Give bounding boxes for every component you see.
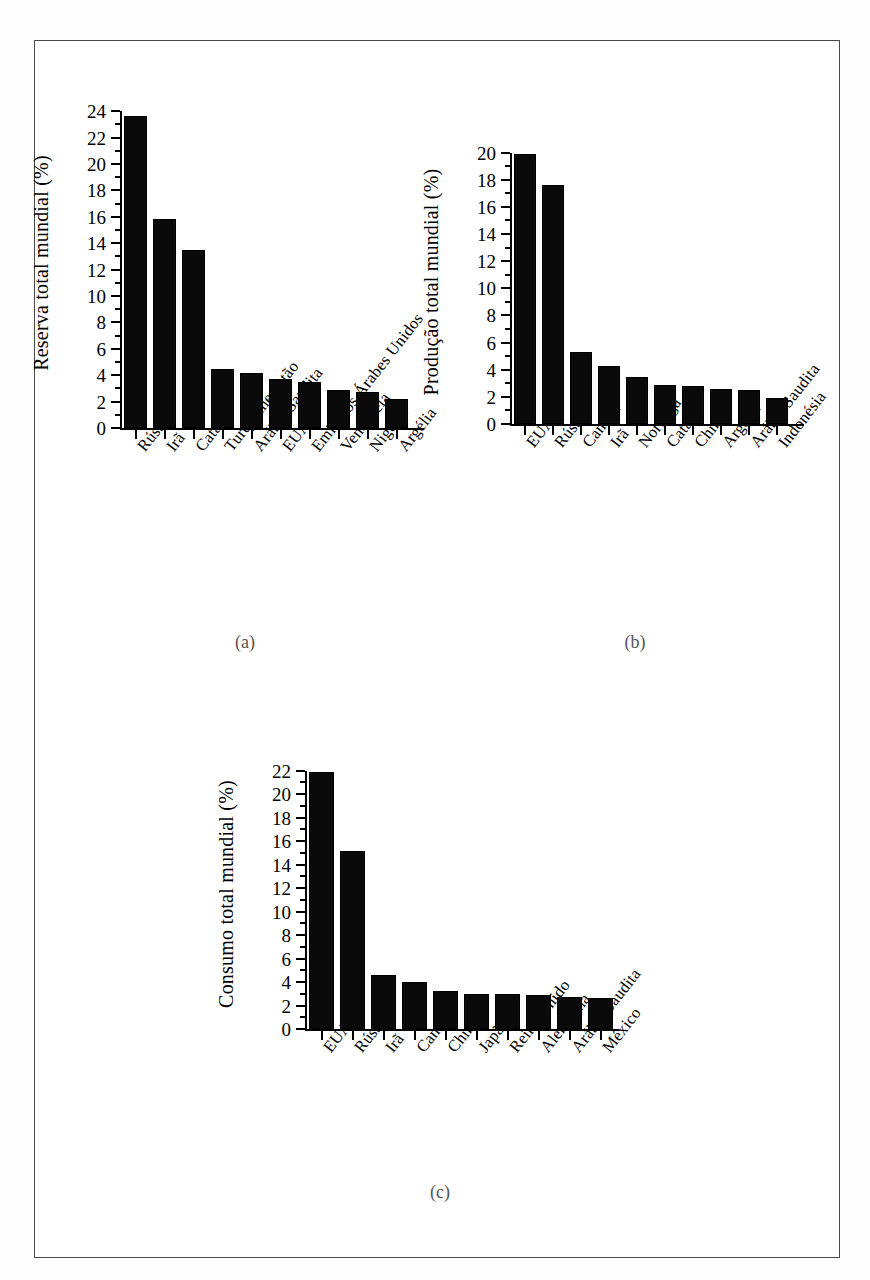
bar — [298, 382, 321, 428]
y-tick-major — [111, 110, 120, 112]
chart-c: 0246810121416182022Consumo total mundial… — [245, 745, 645, 1210]
y-tick-major — [111, 137, 120, 139]
y-tick-minor — [300, 993, 305, 995]
y-tick-major — [296, 887, 305, 889]
y-tick-label: 22 — [58, 128, 106, 147]
y-tick-major — [296, 793, 305, 795]
y-tick-label: 12 — [243, 879, 291, 898]
y-tick-major — [296, 1028, 305, 1030]
y-tick-label: 22 — [243, 761, 291, 780]
y-tick-label: 18 — [448, 170, 496, 189]
y-tick-label: 24 — [58, 102, 106, 121]
y-tick-minor — [505, 409, 510, 411]
y-tick-minor — [505, 328, 510, 330]
y-tick-minor — [505, 219, 510, 221]
y-tick-major — [296, 817, 305, 819]
bar — [371, 975, 396, 1029]
y-tick-label: 10 — [58, 287, 106, 306]
y-tick-major — [296, 934, 305, 936]
bar — [495, 994, 520, 1029]
y-tick-major — [501, 423, 510, 425]
y-tick-major — [501, 369, 510, 371]
caption-a: (a) — [205, 632, 285, 653]
bar — [464, 994, 489, 1029]
bar — [514, 154, 536, 424]
y-tick-label: 8 — [448, 306, 496, 325]
y-axis-line — [510, 153, 512, 424]
bar — [402, 982, 427, 1029]
y-tick-minor — [115, 255, 120, 257]
y-tick-major — [111, 374, 120, 376]
bar — [433, 991, 458, 1029]
y-tick-minor — [505, 274, 510, 276]
y-tick-label: 12 — [58, 260, 106, 279]
bar — [340, 851, 365, 1029]
y-tick-minor — [505, 301, 510, 303]
y-axis-title: Produção total mundial (%) — [420, 139, 444, 424]
y-tick-minor — [505, 165, 510, 167]
y-tick-label: 16 — [58, 207, 106, 226]
y-tick-minor — [115, 229, 120, 231]
bar — [710, 389, 732, 424]
y-tick-major — [111, 163, 120, 165]
y-tick-minor — [505, 247, 510, 249]
bar — [327, 390, 350, 428]
bar — [356, 392, 379, 428]
y-tick-major — [501, 206, 510, 208]
y-tick-minor — [300, 781, 305, 783]
y-tick-label: 20 — [243, 785, 291, 804]
y-tick-minor — [300, 899, 305, 901]
y-tick-major — [111, 321, 120, 323]
bar — [182, 250, 205, 428]
y-tick-major — [111, 295, 120, 297]
bar — [385, 399, 408, 428]
y-tick-minor — [300, 922, 305, 924]
y-tick-minor — [505, 355, 510, 357]
y-tick-label: 10 — [243, 902, 291, 921]
y-tick-label: 14 — [448, 225, 496, 244]
bar — [626, 377, 648, 425]
y-tick-major — [111, 242, 120, 244]
y-tick-minor — [115, 335, 120, 337]
y-tick-label: 2 — [58, 392, 106, 411]
chart-b: 02468101214161820Produção total mundial … — [450, 125, 820, 650]
y-tick-major — [501, 314, 510, 316]
y-tick-label: 8 — [243, 926, 291, 945]
y-tick-major — [501, 260, 510, 262]
bar — [240, 373, 263, 428]
y-tick-minor — [115, 308, 120, 310]
y-tick-major — [111, 269, 120, 271]
bar — [153, 219, 176, 428]
bar — [598, 366, 620, 424]
y-tick-minor — [115, 150, 120, 152]
y-tick-label: 16 — [448, 197, 496, 216]
y-tick-minor — [115, 282, 120, 284]
y-tick-minor — [300, 828, 305, 830]
y-tick-label: 4 — [58, 366, 106, 385]
y-tick-minor — [300, 875, 305, 877]
y-tick-label: 6 — [58, 339, 106, 358]
x-tick-label: Irã — [382, 1030, 407, 1055]
bar — [738, 390, 760, 424]
y-tick-major — [111, 216, 120, 218]
y-tick-minor — [300, 946, 305, 948]
y-tick-label: 16 — [243, 832, 291, 851]
y-tick-label: 4 — [448, 360, 496, 379]
y-tick-major — [296, 911, 305, 913]
caption-b: (b) — [595, 632, 675, 653]
y-tick-major — [501, 233, 510, 235]
y-tick-major — [501, 179, 510, 181]
bar — [570, 352, 592, 424]
y-tick-minor — [300, 969, 305, 971]
bar — [542, 185, 564, 424]
y-tick-label: 4 — [243, 973, 291, 992]
y-tick-minor — [300, 805, 305, 807]
y-tick-minor — [115, 361, 120, 363]
y-tick-major — [501, 287, 510, 289]
y-tick-minor — [115, 123, 120, 125]
y-tick-label: 10 — [448, 279, 496, 298]
bar — [309, 772, 334, 1029]
y-axis-title: Reserva total mundial (%) — [30, 98, 54, 428]
bar — [269, 379, 292, 428]
y-tick-minor — [300, 852, 305, 854]
